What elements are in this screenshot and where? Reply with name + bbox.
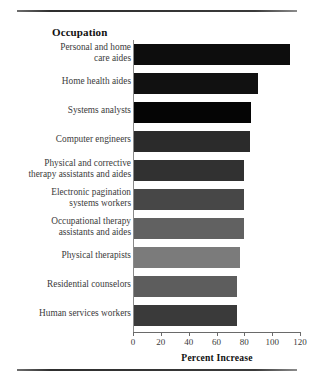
bar bbox=[134, 44, 290, 65]
x-tick-label: 100 bbox=[260, 337, 284, 347]
bar-row: Residential counselors bbox=[0, 273, 313, 302]
bar bbox=[134, 160, 244, 181]
bar bbox=[134, 102, 251, 123]
chart-heading: Occupation bbox=[52, 26, 107, 38]
x-tick-mark bbox=[161, 332, 162, 336]
bar-row-label: Systems analysts bbox=[5, 105, 131, 116]
bar-row: Human services workers bbox=[0, 302, 313, 331]
bar-row-label: Personal and homecare aides bbox=[5, 42, 131, 63]
x-tick-mark bbox=[300, 332, 301, 336]
bar-row-label: Physical therapists bbox=[5, 250, 131, 261]
bar bbox=[134, 131, 250, 152]
chart-plot-area: Personal and homecare aidesHome health a… bbox=[0, 40, 313, 334]
x-tick-label: 60 bbox=[205, 337, 229, 347]
x-tick-mark bbox=[272, 332, 273, 336]
bar-row: Physical therapists bbox=[0, 244, 313, 273]
x-tick-label: 40 bbox=[177, 337, 201, 347]
figure-page: Occupation Personal and homecare aidesHo… bbox=[0, 0, 313, 384]
bar-row-label: Computer engineers bbox=[5, 134, 131, 145]
bar-row: Electronic paginationsystems workers bbox=[0, 186, 313, 215]
bar-row: Computer engineers bbox=[0, 128, 313, 157]
x-tick-mark bbox=[217, 332, 218, 336]
bar-row-label: Occupational therapyassistants and aides bbox=[5, 216, 131, 237]
bar bbox=[134, 218, 244, 239]
bar bbox=[134, 305, 237, 326]
bar-row-label: Residential counselors bbox=[5, 279, 131, 290]
bar bbox=[134, 276, 237, 297]
x-tick-mark bbox=[244, 332, 245, 336]
bar-row: Physical and correctivetherapy assistant… bbox=[0, 157, 313, 186]
bottom-rule bbox=[17, 369, 297, 371]
x-tick-mark bbox=[189, 332, 190, 336]
top-rule bbox=[17, 10, 297, 12]
bar-row-label: Electronic paginationsystems workers bbox=[5, 187, 131, 208]
bar-row: Occupational therapyassistants and aides bbox=[0, 215, 313, 244]
bar bbox=[134, 247, 240, 268]
x-tick-label: 20 bbox=[149, 337, 173, 347]
x-tick-label: 80 bbox=[232, 337, 256, 347]
bar-row: Home health aides bbox=[0, 70, 313, 99]
bar-row: Systems analysts bbox=[0, 99, 313, 128]
x-tick-label: 120 bbox=[288, 337, 312, 347]
x-tick-mark bbox=[133, 332, 134, 336]
bar-row-label: Human services workers bbox=[5, 308, 131, 319]
bar-row-label: Home health aides bbox=[5, 76, 131, 87]
x-tick-label: 0 bbox=[121, 337, 145, 347]
bar-row-label: Physical and correctivetherapy assistant… bbox=[5, 158, 131, 179]
bar bbox=[134, 189, 244, 210]
bar-row: Personal and homecare aides bbox=[0, 41, 313, 70]
bar bbox=[134, 73, 258, 94]
x-axis-title: Percent Increase bbox=[133, 352, 301, 363]
